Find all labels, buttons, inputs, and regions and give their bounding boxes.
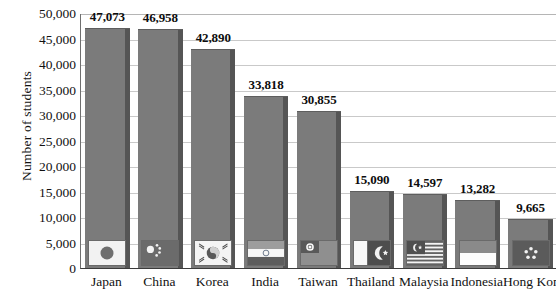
x-axis-tick-labels: JapanChinaKoreaIndiaTaiwanThailandMalays… [80,272,556,301]
bar-group[interactable]: 13,282 [455,200,499,268]
x-axis-tick-label: Taiwan [292,274,345,290]
bar[interactable] [85,28,129,268]
x-axis-tick-label: Thailand [344,274,397,290]
bar-shadow-edge [230,50,235,268]
bar-chart: Number of students 05,00010,00015,00020,… [0,0,556,301]
japan-flag [88,240,126,266]
bar-value-label: 14,597 [407,175,442,191]
bar-group[interactable]: 15,090 [350,191,394,268]
taiwan-flag [300,240,338,266]
y-axis-tick-label: 25,000 [18,135,76,149]
y-axis-tick-label: 30,000 [18,109,76,123]
x-axis-tick-label: China [133,274,186,290]
bar-group[interactable]: 42,890 [191,49,235,268]
bar-value-label: 47,073 [90,9,125,25]
bar-group[interactable]: 9,665 [508,219,552,268]
bar[interactable] [138,29,182,268]
x-axis-tick-label: Hong Kong [503,274,556,290]
korea-flag [194,240,232,266]
y-axis-tick-label: 40,000 [18,58,76,72]
bar-group[interactable]: 47,073 [85,28,129,268]
x-axis-tick-label: Japan [80,274,133,290]
bar-shadow-edge [125,29,130,268]
bar[interactable] [297,111,341,268]
bar-value-label: 46,958 [143,10,178,26]
y-axis-tick-label: 35,000 [18,84,76,98]
y-axis-tick-label: 15,000 [18,186,76,200]
bar[interactable] [350,191,394,268]
bar-value-label: 9,665 [516,200,545,216]
y-axis-tick-label: 10,000 [18,211,76,225]
hong-kong-flag [512,240,550,266]
bar-group[interactable]: 33,818 [244,96,288,268]
bar-group[interactable]: 14,597 [403,194,447,268]
y-axis-tick-label: 45,000 [18,33,76,47]
bar-value-label: 15,090 [354,172,389,188]
x-axis-tick-label: Malaysia [397,274,450,290]
bar[interactable] [455,200,499,268]
malaysia-flag [406,240,444,266]
india-flag [247,240,285,266]
x-axis-tick-label: Korea [186,274,239,290]
bar[interactable] [244,96,288,268]
thailand-flag [353,240,391,266]
bar-group[interactable]: 30,855 [297,111,341,268]
y-axis-tick-labels: 05,00010,00015,00020,00025,00030,00035,0… [18,0,76,301]
x-axis-tick-label: India [239,274,292,290]
bar-value-label: 13,282 [460,181,495,197]
china-flag [141,240,179,266]
y-axis-tick-label: 0 [18,262,76,276]
bar[interactable] [403,194,447,268]
bar[interactable] [191,49,235,268]
bar-group[interactable]: 46,958 [138,29,182,268]
y-axis-tick-label: 20,000 [18,160,76,174]
bar-value-label: 33,818 [249,77,284,93]
y-axis-tick-label: 5,000 [18,237,76,251]
bar-shadow-edge [178,30,183,268]
bar-value-label: 42,890 [196,30,231,46]
indonesia-flag [459,240,497,266]
bar[interactable] [508,219,552,268]
bars-layer: 47,07346,95842,89033,81830,85515,09014,5… [81,14,556,268]
y-axis-tick-label: 50,000 [18,7,76,21]
x-axis-tick-label: Indonesia [450,274,503,290]
plot-area: 47,07346,95842,89033,81830,85515,09014,5… [80,14,556,269]
bar-value-label: 30,855 [301,92,336,108]
